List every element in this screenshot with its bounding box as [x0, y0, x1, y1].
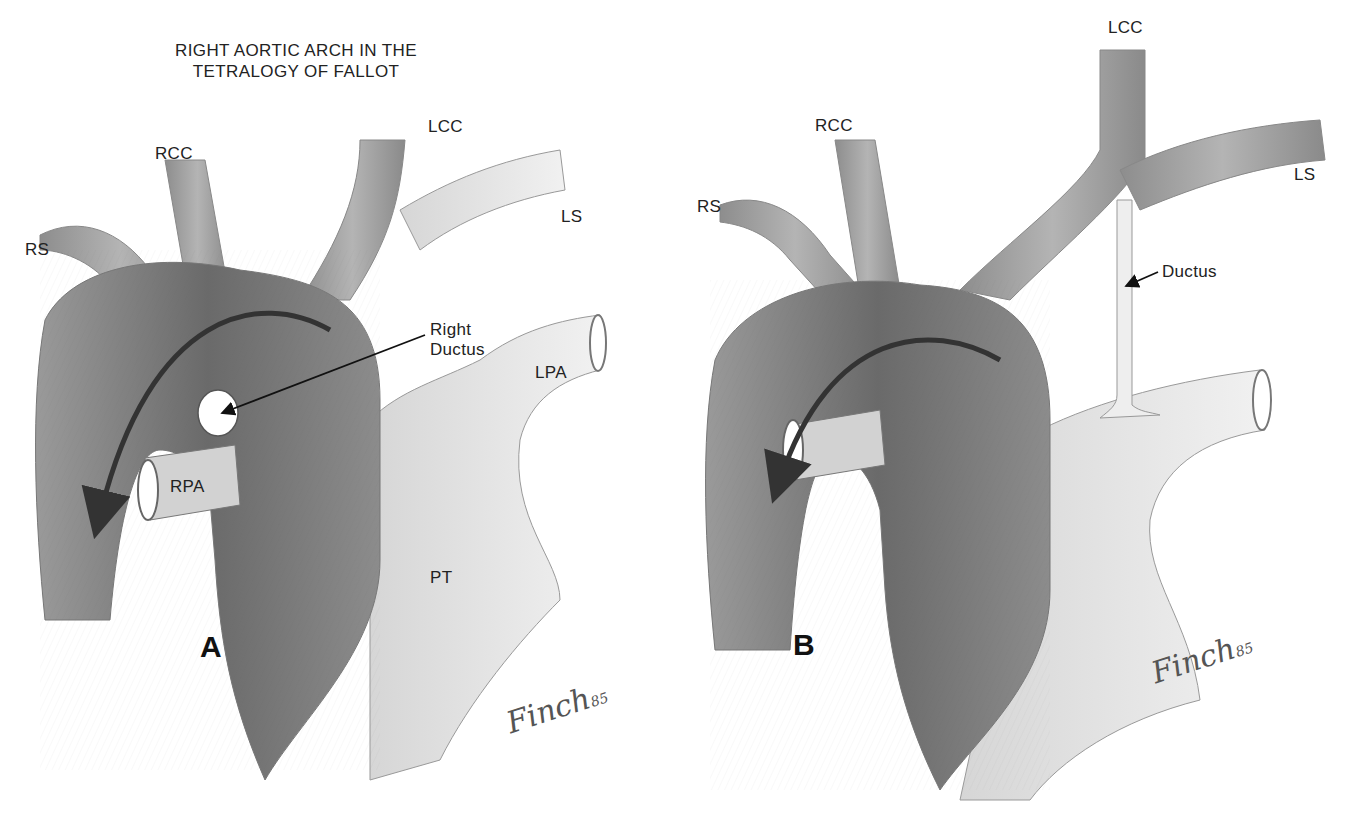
label-a-pt: PT: [430, 568, 452, 588]
panel-b-letter: B: [793, 628, 815, 662]
panel-a-letter: A: [200, 630, 222, 664]
panel-b-drawing: [706, 50, 1325, 800]
label-b-lcc: LCC: [1108, 18, 1143, 38]
figure-title-line-1: RIGHT AORTIC ARCH IN THE: [146, 40, 446, 61]
label-a-right-ductus-line-1: Right: [430, 320, 485, 340]
label-b-rs: RS: [697, 197, 721, 217]
label-a-ls: LS: [561, 207, 582, 227]
label-b-rcc: RCC: [815, 116, 853, 136]
figure-title-line-2: TETRALOGY OF FALLOT: [146, 61, 446, 82]
label-a-rcc: RCC: [155, 144, 193, 164]
anatomical-illustration: [0, 0, 1346, 823]
label-b-ductus: Ductus: [1162, 262, 1217, 282]
label-a-lcc: LCC: [428, 117, 463, 137]
label-a-rs: RS: [25, 240, 49, 260]
panel-a-drawing: [36, 140, 606, 780]
label-b-ls: LS: [1294, 165, 1315, 185]
label-a-right-ductus: Right Ductus: [430, 320, 485, 360]
label-a-rpa: RPA: [170, 477, 205, 497]
label-a-lpa: LPA: [535, 363, 567, 383]
label-a-right-ductus-line-2: Ductus: [430, 340, 485, 360]
figure-title: RIGHT AORTIC ARCH IN THE TETRALOGY OF FA…: [146, 40, 446, 82]
